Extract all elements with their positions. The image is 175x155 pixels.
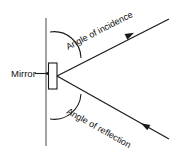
mirror-label: Mirror — [11, 68, 36, 79]
optics-diagram: Mirror Angle of incidence Angle of refle… — [0, 0, 175, 155]
reflection-diagram-canvas: Mirror Angle of incidence Angle of refle… — [0, 0, 175, 155]
angle-of-incidence-label: Angle of incidence — [64, 9, 134, 52]
mirror-leader-arrow — [35, 72, 49, 76]
reflected-ray-arrowhead — [139, 120, 150, 130]
mirror-block — [49, 63, 58, 89]
